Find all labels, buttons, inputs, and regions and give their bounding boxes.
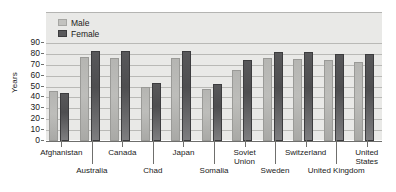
bar-group: [138, 43, 169, 141]
x-tick-mark: [367, 140, 368, 147]
bar-female: [182, 51, 191, 141]
bar-female: [121, 51, 130, 141]
y-tick-label-30: 30: [31, 103, 40, 112]
bar-male: [232, 70, 241, 141]
bar-group: [77, 43, 108, 141]
x-tick-mark: [183, 140, 184, 147]
x-axis-label: UnitedStates: [322, 148, 396, 166]
y-tick-mark-60: [41, 75, 44, 76]
bar-male: [49, 91, 58, 141]
y-axis-tick-labels: 9080706050403020100: [0, 12, 44, 140]
bar-male: [263, 58, 272, 141]
bar-group: [351, 43, 382, 141]
plot-area: Male Female: [46, 12, 382, 140]
bar-female: [335, 54, 344, 141]
y-tick-label-0: 0: [35, 136, 40, 145]
x-axis-category-labels: AfghanistanAustraliaCanadaChadJapanSomal…: [46, 140, 382, 192]
bar-female: [304, 52, 313, 141]
bar-group: [168, 43, 199, 141]
legend-label-male: Male: [71, 18, 89, 28]
bar-group: [107, 43, 138, 141]
y-tick-label-50: 50: [31, 82, 40, 91]
y-tick-mark-40: [41, 96, 44, 97]
bar-group: [290, 43, 321, 141]
bar-female: [274, 52, 283, 141]
y-tick-mark-10: [41, 129, 44, 130]
bar-male: [141, 87, 150, 141]
bar-female: [60, 93, 69, 141]
y-tick-label-10: 10: [31, 125, 40, 134]
legend-label-female: Female: [71, 29, 99, 39]
bar-groups: [46, 43, 382, 141]
bar-female: [91, 51, 100, 141]
x-axis-label: United Kingdom: [291, 166, 381, 175]
y-tick-mark-80: [41, 53, 44, 54]
y-tick-label-20: 20: [31, 114, 40, 123]
bar-male: [80, 57, 89, 141]
y-tick-mark-70: [41, 64, 44, 65]
legend-item-male: Male: [58, 17, 99, 28]
bar-male: [354, 62, 363, 141]
bar-group: [229, 43, 260, 141]
x-tick-mark: [245, 140, 246, 147]
y-tick-label-80: 80: [31, 49, 40, 58]
bar-group: [46, 43, 77, 141]
legend-swatch-male-icon: [58, 19, 67, 26]
x-tick-mark: [61, 140, 62, 147]
x-tick-mark: [306, 140, 307, 147]
y-tick-mark-0: [41, 140, 44, 141]
bar-group: [321, 43, 352, 141]
bar-male: [110, 58, 119, 141]
y-tick-mark-30: [41, 107, 44, 108]
bar-female: [213, 84, 222, 141]
y-tick-label-70: 70: [31, 60, 40, 69]
y-tick-label-40: 40: [31, 92, 40, 101]
x-tick-mark: [122, 140, 123, 147]
bar-group: [199, 43, 230, 141]
legend-swatch-female-icon: [58, 30, 67, 37]
legend: Male Female: [58, 17, 99, 39]
bar-female: [152, 83, 161, 141]
y-tick-mark-50: [41, 86, 44, 87]
y-tick-label-90: 90: [31, 38, 40, 47]
bar-female: [243, 60, 252, 141]
y-tick-label-60: 60: [31, 71, 40, 80]
bar-female: [365, 54, 374, 141]
bar-male: [202, 89, 211, 141]
y-tick-mark-90: [41, 42, 44, 43]
life-expectancy-bar-chart: Years 9080706050403020100 Male Female Af…: [0, 0, 396, 192]
bar-group: [260, 43, 291, 141]
bar-male: [324, 60, 333, 141]
bar-male: [171, 58, 180, 141]
bar-male: [293, 59, 302, 141]
y-tick-mark-20: [41, 118, 44, 119]
legend-item-female: Female: [58, 28, 99, 39]
